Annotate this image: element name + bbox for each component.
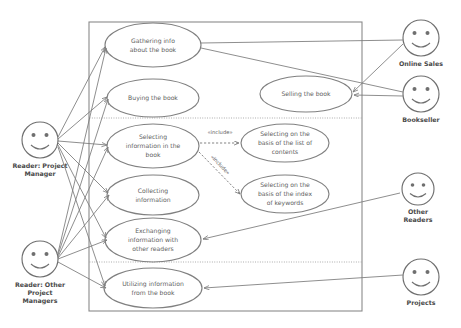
actor-projects[interactable]: Projects	[403, 259, 439, 307]
use-case-label: information	[135, 196, 170, 203]
assoc-opm-collecting	[58, 195, 109, 258]
use-case-label: about the book	[130, 46, 177, 53]
use-case-gathering-info[interactable]: Gathering info about the book	[105, 23, 201, 67]
actors: Reader: Project Manager Reader: Other Pr…	[12, 20, 443, 307]
use-case-label: basis of the index	[258, 190, 312, 197]
actor-label: Bookseller	[402, 116, 440, 123]
actor-label: Reader: Project	[12, 162, 67, 170]
actor-label: Projects	[407, 299, 436, 307]
use-case-label: information in the	[126, 142, 181, 149]
actor-label: Manager	[24, 170, 56, 178]
use-case-label: book	[146, 151, 161, 158]
use-case-label: of keywords	[267, 199, 304, 207]
use-case-label: basis of the list of	[258, 139, 313, 146]
actor-label: Reader: Other	[15, 281, 66, 288]
actor-label: Project	[27, 289, 52, 297]
actor-other-readers[interactable]: Other Readers	[402, 173, 434, 223]
use-case-label: information with	[128, 236, 178, 243]
use-case-label: from the book	[132, 289, 175, 296]
use-case-selecting-index-of-keywords[interactable]: Selecting on the basis of the index of k…	[241, 175, 329, 213]
use-case-label: Utilizing information	[122, 280, 184, 288]
include-labels: «include» «include»	[207, 129, 232, 176]
assoc-onlinesales-gathering	[201, 40, 403, 43]
use-case-diagram: Gathering info about the book Buying the…	[0, 0, 461, 328]
include-stereotype-label: «include»	[210, 153, 232, 175]
use-case-label: Collecting	[138, 187, 168, 195]
association-lines	[58, 40, 403, 288]
use-case-label: Selling the book	[281, 90, 331, 98]
actor-label: Managers	[23, 297, 58, 305]
use-case-selecting-information[interactable]: Selecting information in the book	[107, 124, 199, 168]
use-case-label: Buying the book	[128, 94, 178, 102]
use-case-exchanging-information[interactable]: Exchanging information with other reader…	[105, 218, 201, 262]
actor-bookseller[interactable]: Bookseller	[402, 76, 440, 123]
actor-label: Readers	[403, 216, 432, 223]
use-case-label: other readers	[132, 245, 173, 252]
assoc-pm-selecting	[58, 141, 107, 145]
assoc-opm-utilizing	[58, 262, 106, 288]
use-case-utilizing-information[interactable]: Utilizing information from the book	[104, 268, 202, 308]
include-relationships	[199, 143, 240, 194]
assoc-pm-gathering	[58, 47, 105, 137]
use-case-selecting-list-of-contents[interactable]: Selecting on the basis of the list of co…	[241, 124, 329, 162]
actor-online-sales[interactable]: Online Sales	[399, 20, 443, 67]
use-case-label: contents	[272, 148, 299, 155]
assoc-projects-utilizing	[204, 275, 403, 288]
use-case-label: Selecting	[139, 133, 167, 141]
assoc-bookseller-gathering	[201, 48, 403, 92]
use-case-ellipses: Gathering info about the book Buying the…	[104, 23, 352, 308]
use-case-label: Exchanging	[135, 227, 171, 235]
include-stereotype-label: «include»	[207, 129, 232, 135]
actor-label: Other	[408, 208, 429, 215]
use-case-label: Gathering info	[131, 37, 175, 45]
use-case-label: Selecting on the	[260, 130, 310, 138]
use-case-label: Selecting on the	[260, 181, 310, 189]
use-case-buying-the-book[interactable]: Buying the book	[107, 79, 199, 117]
actor-label: Online Sales	[399, 60, 443, 67]
assoc-onlinesales-selling	[353, 44, 403, 92]
assoc-bookseller-selling	[354, 95, 403, 96]
use-case-collecting-information[interactable]: Collecting information	[107, 175, 199, 215]
use-case-selling-the-book[interactable]: Selling the book	[260, 76, 352, 112]
